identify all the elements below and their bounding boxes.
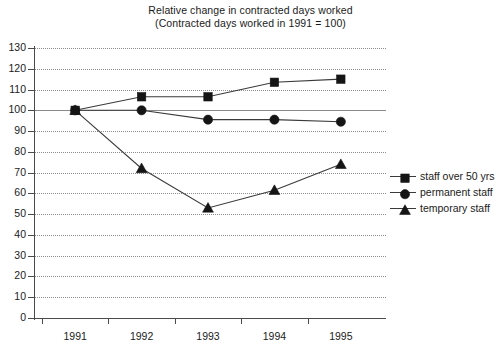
chart-figure: Relative change in contracted days worke… [0,0,501,359]
data-point-marker-square [401,174,409,182]
data-point-marker-circle [137,106,146,115]
legend-label: temporary staff [416,202,490,214]
legend-item[interactable]: temporary staff [390,200,501,216]
data-point-marker-circle [270,115,279,124]
data-point-marker-triangle [400,205,411,215]
legend-marker-glyph [399,204,411,216]
data-point-marker-square [337,75,345,83]
legend-label: staff over 50 yrs [416,170,495,182]
series-staff-over-50-yrs [71,75,345,115]
data-point-marker-circle [400,190,409,199]
data-point-marker-circle [336,117,345,126]
data-point-marker-square [137,93,145,101]
data-point-marker-square [270,78,278,86]
legend-label: permanent staff [416,186,493,198]
legend-item[interactable]: staff over 50 yrs [390,168,501,184]
legend-marker-glyph [399,172,411,184]
legend-item[interactable]: permanent staff [390,184,501,200]
series-permanent-staff [71,106,346,127]
chart-legend: staff over 50 yrspermanent stafftemporar… [390,168,501,216]
legend-marker-triangle-icon [390,201,416,215]
series-line [75,110,341,208]
legend-marker-glyph [399,188,411,200]
data-point-marker-triangle [269,185,280,195]
data-point-marker-square [204,93,212,101]
data-point-marker-circle [203,115,212,124]
data-point-marker-triangle [335,159,346,169]
legend-marker-circle-icon [390,185,416,199]
legend-marker-square-icon [390,169,416,183]
